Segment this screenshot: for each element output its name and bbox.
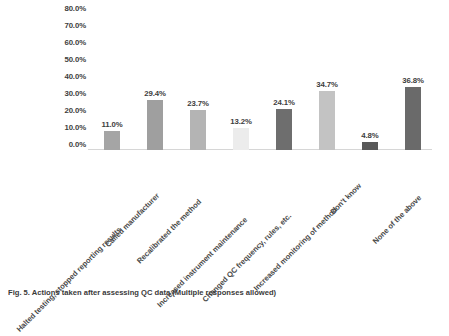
figure-caption: Fig. 5. Actions taken after assessing QC… <box>8 288 438 297</box>
x-axis-tick-label: Called manufacturer <box>77 191 161 275</box>
x-axis-tick-label: Don't know <box>300 181 363 244</box>
x-axis-tick-label: None of the above <box>346 193 423 270</box>
